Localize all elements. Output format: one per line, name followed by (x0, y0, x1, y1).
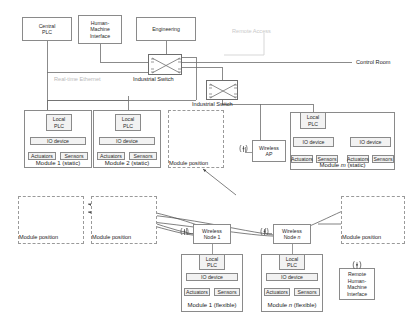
module-1-flexible-caption: Module 1 (flexible) (181, 302, 243, 308)
wireless-node-1-box[interactable]: WirelessNode 1 (193, 224, 231, 244)
io-device-label: IO device (360, 139, 382, 146)
network-architecture-diagram: CentralPLC Human-MachineInterface Engine… (0, 0, 418, 328)
sensors-label: Sensors (64, 153, 83, 160)
switch-icon (149, 55, 183, 76)
antenna-icon (258, 223, 271, 241)
module-position-label: Module position (19, 234, 58, 240)
io-device-label: IO device (303, 139, 325, 146)
io-device-label: IO device (116, 138, 138, 145)
module-1-actuators[interactable]: Actuators (28, 152, 56, 160)
module-position-label: Module position (169, 160, 208, 166)
actuators-label: Actuators (31, 153, 53, 160)
module-m-io-device-2[interactable]: IO device (350, 137, 391, 147)
local-plc-label: LocalPLC (307, 114, 319, 127)
industrial-switch-1-label: Industrial Switch (133, 76, 174, 82)
local-plc-label: LocalPLC (122, 116, 134, 129)
module-1-sensors[interactable]: Sensors (60, 152, 88, 160)
module-2-io-device[interactable]: IO device (99, 137, 155, 145)
module-2-local-plc[interactable]: LocalPLC (115, 114, 141, 131)
module-1-flexible-actuators[interactable]: Actuators (184, 288, 210, 296)
module-n-flexible-sensors[interactable]: Sensors (294, 288, 320, 296)
module-position-label: Module position (342, 234, 381, 240)
remote-access-label: Remote Access (232, 28, 271, 34)
local-plc-label: LocalPLC (206, 256, 218, 269)
wireless-node-1-label: WirelessNode 1 (202, 228, 222, 241)
local-plc-label: LocalPLC (53, 116, 65, 129)
module-2-static-caption: Module 2 (static) (93, 160, 161, 166)
module-m-io-device-1[interactable]: IO device (293, 137, 334, 147)
module-m-local-plc[interactable]: LocalPLC (300, 112, 326, 129)
engineering-box[interactable]: Engineering (136, 17, 196, 41)
actuators-label: Actuators (186, 289, 208, 296)
human-machine-interface-box[interactable]: Human-MachineInterface (78, 15, 122, 44)
wireless-node-n-label: WirelessNode n (282, 228, 302, 241)
module-n-flexible-caption: Module n (flexible) (261, 302, 323, 308)
module-2-actuators[interactable]: Actuators (97, 152, 125, 160)
actuators-label: Actuators (100, 153, 122, 160)
module-m-static-caption: Module m (static) (290, 162, 395, 168)
sensors-label: Sensors (217, 289, 236, 296)
io-device-label: IO device (281, 274, 303, 281)
hmi-label: Human-MachineInterface (90, 20, 110, 40)
antenna-icon (350, 257, 364, 275)
module-1-flexible-io-device[interactable]: IO device (186, 273, 238, 281)
module-n-flexible-actuators[interactable]: Actuators (264, 288, 290, 296)
module-1-flexible-local-plc[interactable]: LocalPLC (199, 254, 225, 270)
wireless-node-n-box[interactable]: WirelessNode n (273, 224, 311, 244)
antenna-icon (178, 223, 191, 241)
realtime-ethernet-label: Real-time Ethernet (54, 76, 101, 82)
engineering-label: Engineering (152, 26, 180, 33)
switch-icon (207, 81, 239, 101)
industrial-switch-1[interactable] (148, 54, 182, 75)
actuators-label: Actuators (266, 289, 288, 296)
sensors-label: Sensors (133, 153, 152, 160)
module-1-local-plc[interactable]: LocalPLC (46, 114, 72, 131)
sensors-label: Sensors (297, 289, 316, 296)
wireless-ap-box[interactable]: WirelessAP (252, 140, 286, 162)
industrial-switch-2[interactable] (206, 80, 238, 100)
module-1-io-device[interactable]: IO device (30, 137, 86, 145)
central-plc-label: CentralPLC (39, 23, 56, 36)
io-device-label: IO device (47, 138, 69, 145)
module-n-flexible-io-device[interactable]: IO device (266, 273, 318, 281)
antenna-icon (237, 140, 250, 158)
module-2-sensors[interactable]: Sensors (129, 152, 157, 160)
local-plc-label: LocalPLC (286, 256, 298, 269)
module-1-flexible-sensors[interactable]: Sensors (214, 288, 240, 296)
module-1-static-caption: Module 1 (static) (24, 160, 92, 166)
wireless-ap-label: WirelessAP (259, 145, 279, 158)
module-position-label: Module position (92, 234, 131, 240)
central-plc-box[interactable]: CentralPLC (22, 17, 72, 41)
io-device-label: IO device (201, 274, 223, 281)
module-n-flexible-local-plc[interactable]: LocalPLC (279, 254, 305, 270)
industrial-switch-2-label: Industrial Switch (192, 101, 233, 107)
control-room-label: Control Room (356, 59, 391, 65)
